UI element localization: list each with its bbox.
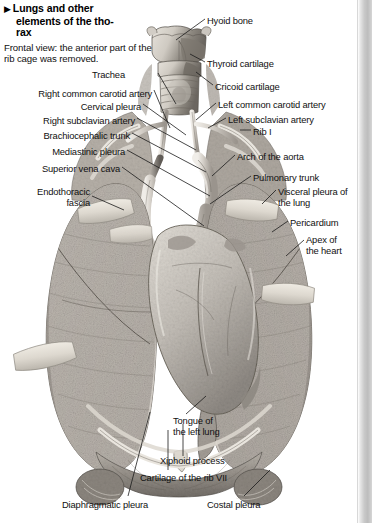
caption-title-line-1: ▶Lungs and other bbox=[4, 3, 156, 16]
label-costal-pleura-line-1: Costal pleura bbox=[207, 500, 260, 511]
label-visceral-pleura-of-lung-line-2: the lung bbox=[278, 198, 348, 209]
label-hyoid-bone: Hyoid bone bbox=[207, 16, 253, 27]
label-mediastinic-pleura: Mediastinic pleura bbox=[0, 147, 125, 158]
label-hyoid-bone-line-1: Hyoid bone bbox=[207, 16, 253, 27]
label-rib-i-line-1: Rib I bbox=[253, 127, 272, 138]
label-right-subclavian-artery: Right subclavian artery bbox=[0, 116, 135, 127]
label-cricoid-cartilage-line-1: Cricoid cartilage bbox=[215, 82, 280, 93]
label-visceral-pleura-of-lung-line-1: Visceral pleura of bbox=[278, 187, 348, 198]
label-trachea: Trachea bbox=[0, 70, 125, 81]
label-left-common-carotid-line-1: Left common carotid artery bbox=[218, 100, 326, 111]
label-thyroid-cartilage: Thyroid cartilage bbox=[207, 59, 274, 70]
label-arch-of-the-aorta: Arch of the aorta bbox=[237, 152, 304, 163]
label-rib-i: Rib I bbox=[253, 127, 272, 138]
label-cricoid-cartilage: Cricoid cartilage bbox=[215, 82, 280, 93]
label-superior-vena-cava: Superior vena cava bbox=[0, 164, 120, 175]
label-arch-of-the-aorta-line-1: Arch of the aorta bbox=[237, 152, 304, 163]
label-thyroid-cartilage-line-1: Thyroid cartilage bbox=[207, 59, 274, 70]
label-cervical-pleura: Cervical pleura bbox=[0, 102, 141, 113]
label-tongue-of-the-left-lung-line-1: Tongue of bbox=[173, 416, 220, 427]
label-right-subclavian-artery-line-1: Right subclavian artery bbox=[0, 116, 135, 127]
label-cartilage-of-the-rib-vii: Cartilage of the rib VII bbox=[140, 473, 227, 484]
page-edge-shadow bbox=[358, 0, 372, 523]
label-xiphoid-process-line-1: Xiphoid process bbox=[160, 456, 224, 467]
label-mediastinic-pleura-line-1: Mediastinic pleura bbox=[0, 147, 125, 158]
figure-page: ▶Lungs and other elements of the tho- ra… bbox=[0, 0, 372, 523]
label-left-subclavian-artery: Left subclavian artery bbox=[228, 115, 314, 126]
caption-title: ▶Lungs and other elements of the tho- ra… bbox=[4, 3, 156, 39]
label-diaphragmatic-pleura: Diaphragmatic pleura bbox=[62, 500, 148, 511]
trachea-rings bbox=[160, 75, 199, 115]
triangle-bullet-icon: ▶ bbox=[4, 4, 11, 14]
label-endothoracic-fascia-line-2: fascia bbox=[0, 198, 90, 209]
figure-caption: ▶Lungs and other elements of the tho- ra… bbox=[4, 3, 156, 64]
caption-subtitle: Frontal view: the anterior part of the r… bbox=[4, 42, 156, 64]
caption-title-line-3: rax bbox=[4, 27, 156, 39]
label-brachiocephalic-trunk: Brachiocephalic trunk bbox=[0, 131, 130, 142]
label-brachiocephalic-trunk-line-1: Brachiocephalic trunk bbox=[0, 131, 130, 142]
label-tongue-of-the-left-lung: Tongue ofthe left lung bbox=[173, 416, 220, 437]
label-endothoracic-fascia-line-1: Endothoracic bbox=[0, 187, 90, 198]
label-diaphragmatic-pleura-line-1: Diaphragmatic pleura bbox=[62, 500, 148, 511]
label-pulmonary-trunk-line-1: Pulmonary trunk bbox=[253, 173, 319, 184]
label-apex-of-the-heart: Apex ofthe heart bbox=[306, 235, 342, 256]
caption-title-text-1: Lungs and other bbox=[13, 2, 94, 14]
label-right-common-carotid-line-1: Right common carotid artery bbox=[0, 89, 152, 100]
label-pericardium: Pericardium bbox=[290, 218, 338, 229]
label-tongue-of-the-left-lung-line-2: the left lung bbox=[173, 427, 220, 438]
label-right-common-carotid: Right common carotid artery bbox=[0, 89, 152, 100]
label-endothoracic-fascia: Endothoracicfascia bbox=[0, 187, 90, 208]
label-visceral-pleura-of-lung: Visceral pleura ofthe lung bbox=[278, 187, 348, 208]
label-apex-of-the-heart-line-2: the heart bbox=[306, 246, 342, 257]
label-cervical-pleura-line-1: Cervical pleura bbox=[0, 102, 141, 113]
label-pulmonary-trunk: Pulmonary trunk bbox=[253, 173, 319, 184]
label-superior-vena-cava-line-1: Superior vena cava bbox=[0, 164, 120, 175]
label-left-common-carotid: Left common carotid artery bbox=[218, 100, 326, 111]
label-left-subclavian-artery-line-1: Left subclavian artery bbox=[228, 115, 314, 126]
label-xiphoid-process: Xiphoid process bbox=[160, 456, 224, 467]
label-cartilage-of-the-rib-vii-line-1: Cartilage of the rib VII bbox=[140, 473, 227, 484]
label-costal-pleura: Costal pleura bbox=[207, 500, 260, 511]
label-pericardium-line-1: Pericardium bbox=[290, 218, 338, 229]
label-trachea-line-1: Trachea bbox=[0, 70, 125, 81]
label-apex-of-the-heart-line-1: Apex of bbox=[306, 235, 342, 246]
